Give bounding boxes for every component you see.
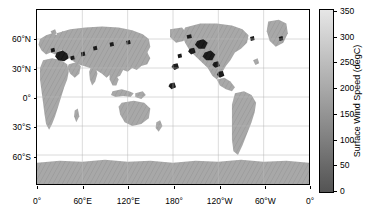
colorbar-title: Surface Wind Speed (degC) [353,45,362,158]
x-tick-label: 0° [33,197,41,206]
colorbar-tick [334,88,337,89]
colorbar-tick-label: 0 [340,187,345,196]
map-axes: 0° 60°E 120°E 180° 120°W 60°W 0° 60°N 30… [36,9,310,185]
colorbar-tick [334,140,337,141]
y-tick-label: 30°S [12,123,31,132]
x-tick [37,186,38,189]
y-tick [34,127,37,128]
y-tick [34,98,37,99]
colorbar-tick [334,11,337,12]
y-tick-label: 30°N [12,64,31,73]
x-tick-label: 0° [306,197,314,206]
colorbar-tick [334,165,337,166]
colorbar-tick-label: 50 [340,161,349,170]
y-tick [34,157,37,158]
y-tick [34,69,37,70]
colorbar-tick [334,62,337,63]
y-tick [34,39,37,40]
x-tick [174,186,175,189]
x-tick [310,186,311,189]
map-clip [37,10,309,184]
x-tick-label: 60°W [255,197,276,206]
x-tick [83,186,84,189]
colorbar-tick-label: 350 [340,7,354,16]
colorbar-tick [334,191,337,192]
x-tick [128,186,129,189]
y-tick-label: 60°S [12,152,31,161]
figure: 0° 60°E 120°E 180° 120°W 60°W 0° 60°N 30… [0,0,380,217]
world-map [37,10,309,184]
x-tick [220,186,221,189]
colorbar-tick [334,37,337,38]
x-tick [265,186,266,189]
colorbar-tick-label: 300 [340,32,354,41]
colorbar-tick [334,114,337,115]
x-tick-label: 180° [165,197,183,206]
x-tick-label: 120°W [207,197,233,206]
x-tick-label: 120°E [117,197,140,206]
x-tick-label: 60°E [73,197,92,206]
y-tick-label: 60°N [12,35,31,44]
colorbar [319,9,334,193]
y-tick-label: 0° [23,94,31,103]
